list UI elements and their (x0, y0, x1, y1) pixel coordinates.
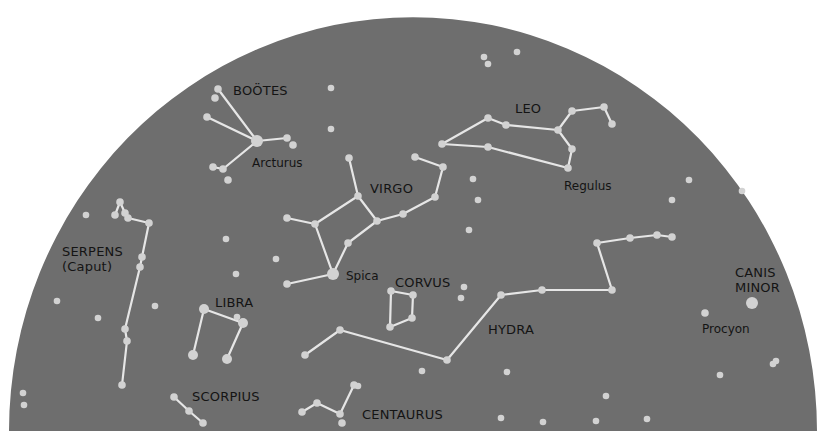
sky-dome (9, 17, 817, 431)
leo-star-icon (484, 143, 492, 151)
hydra-star-icon (593, 239, 601, 247)
scorpius-star-icon (185, 407, 193, 415)
field-star-icon (739, 188, 746, 195)
field-star-icon (95, 315, 102, 322)
bo-tes-star-icon (214, 85, 222, 93)
field-star-icon (21, 402, 28, 409)
virgo-star-icon (344, 239, 352, 247)
field-star-icon (540, 419, 547, 426)
star-label-procyon: Procyon (702, 322, 750, 336)
serpens-caput-star-icon (121, 325, 129, 333)
centaurus-star-icon (338, 419, 346, 427)
field-star-icon (669, 197, 676, 204)
field-star-icon (83, 212, 90, 219)
bo-tes-star-icon (209, 163, 217, 171)
star-chart: BOÖTESVIRGOLEOSERPENS(Caput)LIBRASCORPIU… (0, 0, 830, 443)
hydra-star-icon (653, 231, 661, 239)
serpens-caput-star-icon (136, 263, 144, 271)
bo-tes-star-icon (283, 134, 291, 142)
star-label-arcturus: Arcturus (252, 156, 303, 170)
leo-star-icon (568, 107, 576, 115)
constellation-label-centaurus: CENTAURUS (362, 407, 443, 422)
leo-star-icon (564, 164, 572, 172)
serpens-caput-star-icon (111, 211, 119, 219)
leo-star-icon (484, 114, 492, 122)
centaurus-star-icon (313, 399, 321, 407)
bo-tes-star-icon (289, 141, 297, 149)
bo-tes-star-icon (211, 94, 219, 102)
star-label-spica: Spica (346, 269, 379, 283)
leo-star-icon (438, 140, 446, 148)
corvus-star-icon (409, 291, 417, 299)
bo-tes-star-icon (219, 165, 227, 173)
leo-star-icon (502, 121, 510, 129)
serpens-caput-star-icon (124, 214, 132, 222)
virgo-star-icon (345, 154, 353, 162)
field-star-icon (328, 126, 335, 133)
field-star-icon (504, 369, 511, 376)
hydra-star-icon (301, 351, 309, 359)
virgo-star-icon (399, 210, 407, 218)
field-star-icon (54, 298, 61, 305)
libra-star-icon (199, 304, 209, 314)
corvus-star-icon (386, 323, 394, 331)
libra-star-icon (188, 350, 198, 360)
virgo-star-icon (431, 193, 439, 201)
field-star-icon (152, 303, 159, 310)
field-star-icon (485, 61, 492, 68)
hydra-star-icon (443, 356, 451, 364)
field-star-icon (481, 54, 488, 61)
scorpius-star-icon (199, 419, 207, 427)
canis-minor-star-icon (701, 309, 709, 317)
leo-star-icon (608, 120, 616, 128)
field-star-icon (773, 358, 780, 365)
constellation-label-bo-tes: BOÖTES (233, 82, 288, 98)
virgo-star-icon (373, 217, 381, 225)
field-star-icon (593, 418, 600, 425)
field-star-icon (233, 271, 240, 278)
field-star-icon (498, 415, 505, 422)
field-star-icon (475, 197, 482, 204)
field-star-icon (514, 49, 521, 56)
corvus-star-icon (408, 314, 416, 322)
hydra-star-icon (608, 286, 616, 294)
hydra-star-icon (626, 234, 634, 242)
corvus-star-icon (387, 287, 395, 295)
leo-star-icon (554, 126, 562, 134)
field-star-icon (686, 177, 693, 184)
serpens-caput-star-icon (116, 198, 124, 206)
virgo-star-icon (354, 192, 362, 200)
libra-star-icon (222, 354, 232, 364)
field-star-icon (644, 416, 651, 423)
serpens-caput-star-icon (145, 219, 153, 227)
centaurus-star-icon (350, 381, 358, 389)
field-star-icon (328, 85, 335, 92)
serpens-caput-star-icon (123, 337, 131, 345)
field-star-icon (234, 314, 241, 321)
field-star-icon (461, 284, 468, 291)
virgo-star-icon (311, 220, 319, 228)
field-star-icon (470, 176, 477, 183)
field-star-icon (603, 393, 610, 400)
hydra-star-icon (497, 291, 505, 299)
canis-minor-star-icon (746, 297, 758, 309)
constellation-label-leo: LEO (515, 101, 541, 116)
leo-star-icon (568, 145, 576, 153)
virgo-star-icon (439, 163, 447, 171)
serpens-caput-star-icon (118, 381, 126, 389)
constellation-label-canis-minor: CANISMINOR (735, 265, 780, 295)
constellation-label-hydra: HYDRA (488, 322, 534, 337)
virgo-star-icon (283, 280, 291, 288)
bo-tes-star-icon (224, 176, 232, 184)
constellation-label-virgo: VIRGO (370, 181, 413, 196)
field-star-icon (223, 236, 230, 243)
virgo-star-icon (327, 268, 339, 280)
hydra-star-icon (538, 286, 546, 294)
field-star-icon (419, 368, 426, 375)
field-star-icon (458, 295, 465, 302)
field-star-icon (20, 390, 27, 397)
constellation-label-corvus: CORVUS (395, 275, 451, 290)
bo-tes-star-icon (251, 135, 263, 147)
serpens-caput-star-icon (138, 253, 146, 261)
hydra-star-icon (668, 233, 676, 241)
